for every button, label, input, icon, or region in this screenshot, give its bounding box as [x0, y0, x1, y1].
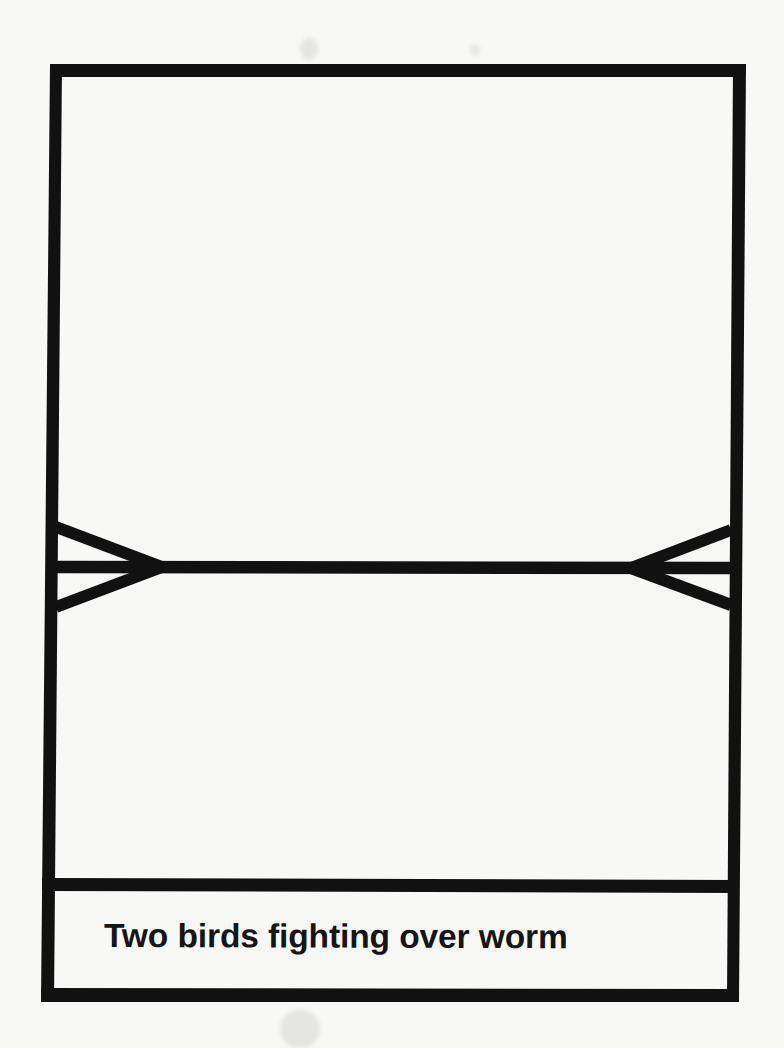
caption-divider	[42, 878, 738, 893]
storyboard-card: Two birds fighting over worm	[0, 0, 784, 1048]
card-caption: Two birds fighting over worm	[104, 916, 664, 957]
frame-bottom	[41, 988, 739, 1002]
storyboard-frame	[0, 0, 784, 1048]
frame-top	[50, 64, 746, 77]
frame-border	[41, 64, 746, 1002]
